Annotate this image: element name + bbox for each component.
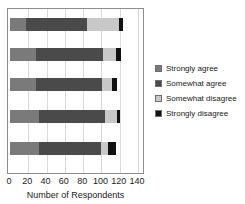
legend-item-label: Strongly disagree [166, 109, 228, 119]
bar-segment [10, 18, 26, 31]
bar-segment [36, 48, 104, 61]
bar-row [10, 142, 116, 155]
legend-swatch-icon [155, 95, 162, 102]
legend-item[interactable]: Strongly disagree [155, 107, 245, 120]
x-tick-label: 80 [77, 176, 87, 186]
legend-swatch-icon [155, 80, 162, 87]
bar-segment [39, 110, 105, 123]
x-axis-tick-labels: 020406080100120140 [0, 176, 245, 189]
bar-segment [112, 78, 117, 91]
gridline [120, 9, 121, 173]
bar-segment [102, 78, 112, 91]
legend-item-label: Somewhat disagree [166, 94, 237, 104]
bar-segment [39, 142, 100, 155]
x-tick-label: 120 [111, 176, 126, 186]
legend-item-label: Strongly agree [166, 64, 218, 74]
bar-segment [101, 142, 108, 155]
bar-segment [119, 18, 124, 31]
chart-legend: Strongly agreeSomewhat agreeSomewhat dis… [155, 62, 245, 122]
legend-item[interactable]: Strongly agree [155, 62, 245, 75]
bar-segment [105, 110, 117, 123]
bar-segment [36, 78, 103, 91]
x-tick-label: 60 [59, 176, 69, 186]
bar-segment [10, 78, 36, 91]
x-tick-label: 140 [129, 176, 144, 186]
bar-segment [108, 142, 116, 155]
bar-row [10, 48, 121, 61]
bar-segment [10, 48, 36, 61]
legend-item[interactable]: Somewhat disagree [155, 92, 245, 105]
bar-segment [87, 18, 119, 31]
bar-segment [103, 48, 116, 61]
bar-row [10, 18, 123, 31]
bar-segment [26, 18, 87, 31]
legend-item-label: Somewhat agree [166, 79, 226, 89]
stacked-bar-chart: 020406080100120140 Number of Respondents… [0, 0, 245, 204]
legend-item[interactable]: Somewhat agree [155, 77, 245, 90]
plot-area [8, 9, 143, 173]
bar-segment [10, 142, 39, 155]
legend-swatch-icon [155, 110, 162, 117]
x-tick-label: 20 [22, 176, 32, 186]
bar-segment [116, 48, 121, 61]
bar-segment [10, 110, 39, 123]
legend-swatch-icon [155, 65, 162, 72]
x-tick-label: 0 [6, 176, 11, 186]
x-tick-label: 100 [93, 176, 108, 186]
x-axis-title: Number of Respondents [7, 190, 144, 200]
bar-row [10, 78, 117, 91]
bar-row [10, 110, 120, 123]
plot-frame [7, 8, 144, 174]
gridline [138, 9, 139, 173]
bar-segment [117, 110, 120, 123]
x-tick-label: 40 [41, 176, 51, 186]
